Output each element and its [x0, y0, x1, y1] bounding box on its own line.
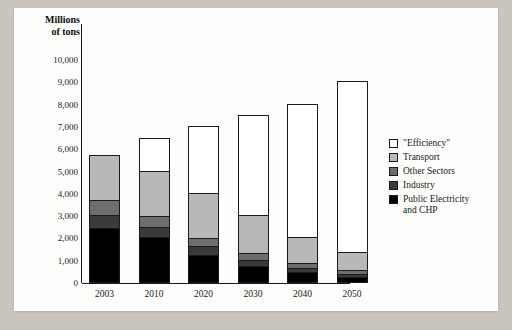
legend-swatch-icon — [389, 167, 398, 176]
y-axis-tick-labels: 01,0002,0003,0004,0005,0006,0007,0008,00… — [14, 0, 78, 330]
y-axis-tick-label: 0 — [20, 278, 78, 288]
chart-screenshot: Millions of tons 01,0002,0003,0004,0005,… — [0, 0, 512, 330]
bar-segment[interactable] — [238, 215, 269, 254]
y-axis-tick-label: 6,000 — [20, 144, 78, 154]
legend-item-label-line: "Efficiency" — [403, 138, 450, 149]
y-axis-tick-label: 9,000 — [20, 77, 78, 87]
y-axis-tick-label: 3,000 — [20, 211, 78, 221]
legend-item[interactable]: Industry — [389, 180, 501, 191]
legend-swatch-icon — [389, 181, 398, 190]
legend-item-label-line: Industry — [403, 180, 435, 191]
y-axis-tick-label: 5,000 — [20, 167, 78, 177]
legend-item[interactable]: Public Electricityand CHP — [389, 194, 501, 216]
bar-segment[interactable] — [188, 246, 219, 255]
bar-segment[interactable] — [337, 252, 368, 271]
legend-item-label: Transport — [403, 152, 440, 163]
x-axis-tick-label: 2003 — [85, 289, 125, 299]
chart-legend: "Efficiency"TransportOther SectorsIndust… — [389, 138, 501, 219]
legend-swatch-icon — [389, 139, 398, 148]
legend-swatch-icon — [389, 195, 398, 204]
y-axis-tick-label: 2,000 — [20, 233, 78, 243]
legend-item-label-line: and CHP — [403, 205, 469, 216]
legend-item-label: Public Electricityand CHP — [403, 194, 469, 216]
legend-item-label: Other Sectors — [403, 166, 455, 177]
x-axis-tick-label: 2030 — [233, 289, 273, 299]
x-axis-tick-label: 2040 — [283, 289, 323, 299]
x-axis-line — [82, 283, 350, 284]
bar-segment[interactable] — [139, 216, 170, 229]
bar-segment[interactable] — [287, 237, 318, 263]
bar-segment[interactable] — [287, 272, 318, 283]
bar-segment[interactable] — [188, 238, 219, 248]
x-axis-tick-label: 2010 — [134, 289, 174, 299]
bar-segment[interactable] — [188, 193, 219, 239]
bar-stack[interactable] — [89, 60, 120, 283]
y-axis-tick-label: 4,000 — [20, 189, 78, 199]
bar-segment[interactable] — [139, 171, 170, 217]
legend-item[interactable]: Transport — [389, 152, 501, 163]
bar-stack[interactable] — [238, 60, 269, 283]
y-axis-tick-label: 8,000 — [20, 100, 78, 110]
bar-stack[interactable] — [139, 60, 170, 283]
bar-segment[interactable] — [89, 215, 120, 229]
y-axis-tick-label: 10,000 — [20, 55, 78, 65]
legend-item-label-line: Public Electricity — [403, 194, 469, 205]
bar-segment[interactable] — [238, 266, 269, 283]
bar-segment[interactable] — [139, 227, 170, 237]
bar-segment[interactable] — [89, 228, 120, 283]
legend-item[interactable]: Other Sectors — [389, 166, 501, 177]
bar-stack[interactable] — [287, 60, 318, 283]
bar-stack[interactable] — [188, 60, 219, 283]
bar-segment[interactable] — [287, 104, 318, 239]
bar-segment[interactable] — [139, 237, 170, 283]
y-axis-tick-label: 1,000 — [20, 256, 78, 266]
bar-segment[interactable] — [89, 200, 120, 216]
legend-item-label-line: Other Sectors — [403, 166, 455, 177]
legend-swatch-icon — [389, 153, 398, 162]
bar-segment[interactable] — [238, 260, 269, 268]
y-axis-tick-label: 7,000 — [20, 122, 78, 132]
bar-segment[interactable] — [139, 138, 170, 171]
legend-item-label-line: Transport — [403, 152, 440, 163]
bar-segment[interactable] — [89, 155, 120, 201]
bar-segment[interactable] — [188, 126, 219, 194]
bar-segment[interactable] — [238, 253, 269, 261]
legend-item-label: "Efficiency" — [403, 138, 450, 149]
bar-segment[interactable] — [188, 255, 219, 283]
legend-item[interactable]: "Efficiency" — [389, 138, 501, 149]
bar-segment[interactable] — [238, 115, 269, 216]
x-axis-tick-label: 2050 — [332, 289, 372, 299]
x-axis-tick-label: 2020 — [184, 289, 224, 299]
bar-segment[interactable] — [337, 81, 368, 253]
legend-item-label: Industry — [403, 180, 435, 191]
bar-stack[interactable] — [337, 60, 368, 283]
